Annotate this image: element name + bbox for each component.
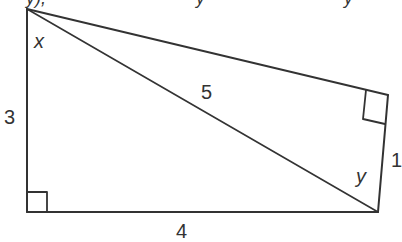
right-angle-marker-bottom-left	[27, 192, 47, 212]
svg-text:y: y	[342, 0, 354, 8]
label-diagonal: 5	[201, 81, 212, 103]
right-angle-marker-right	[363, 90, 385, 124]
svg-text:y),: y),	[24, 0, 46, 8]
label-left-side: 3	[4, 106, 15, 128]
top-text-fragment: y), y y	[24, 0, 354, 8]
svg-text:y: y	[194, 0, 206, 8]
diagonal	[27, 9, 378, 212]
label-bottom-side: 4	[176, 220, 187, 242]
label-angle-x: x	[33, 30, 45, 52]
right-side	[378, 95, 388, 212]
geometry-diagram: y), y y 3 4 5 1 x y	[0, 0, 402, 242]
label-angle-y: y	[354, 165, 367, 187]
label-right-side: 1	[391, 149, 402, 171]
